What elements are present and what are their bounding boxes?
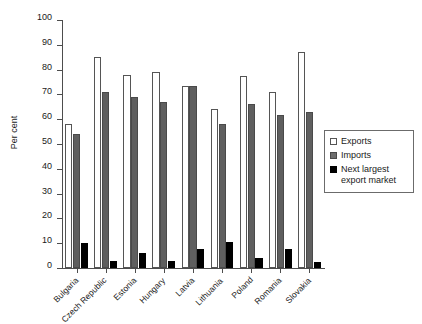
legend-swatch-next-largest-export-market-icon (330, 166, 337, 173)
bar-imports (219, 124, 226, 268)
bar-exports (298, 52, 305, 268)
bar-group (269, 20, 292, 268)
bar-exports (123, 75, 130, 268)
x-axis-tick-mark (280, 268, 281, 273)
bar-imports (131, 97, 138, 268)
y-axis-tick-label: 30 (42, 187, 52, 196)
y-axis-tick-label: 0 (47, 261, 52, 270)
bar-next-largest-export-market (255, 258, 262, 268)
bar-next-largest-export-market (168, 261, 175, 268)
x-axis-tick-mark (251, 268, 252, 273)
x-axis-tick-mark (106, 268, 107, 273)
bar-group (240, 20, 263, 268)
bar-exports (269, 92, 276, 268)
bar-imports (189, 86, 196, 268)
x-axis-label: Hungary (138, 276, 167, 305)
bar-next-largest-export-market (197, 249, 204, 268)
legend-item-exports: Exports (330, 136, 409, 147)
bar-group (298, 20, 321, 268)
y-axis-title: Per cent (10, 88, 19, 178)
x-axis-tick-mark (77, 268, 78, 273)
bar-chart: Per cent 0102030405060708090100 Bulgaria… (0, 0, 422, 324)
y-axis-tick-label: 100 (37, 13, 52, 22)
x-axis-tick-mark (135, 268, 136, 273)
x-axis-label: Lithuania (194, 276, 225, 307)
y-axis-tick-label: 40 (42, 162, 52, 171)
bar-group (152, 20, 175, 268)
bar-group (123, 20, 146, 268)
legend-swatch-imports-icon (330, 152, 337, 159)
x-axis-label: Estonia (112, 276, 138, 302)
legend-item-next-largest-export-market: Next largest export market (330, 164, 409, 186)
legend-label-exports: Exports (341, 136, 372, 147)
bar-group (65, 20, 88, 268)
x-axis-label: Romania (253, 276, 283, 306)
bar-exports (65, 124, 72, 268)
bar-imports (102, 92, 109, 268)
bar-next-largest-export-market (139, 253, 146, 268)
bar-next-largest-export-market (285, 249, 292, 268)
bar-imports (248, 104, 255, 268)
bar-next-largest-export-market (81, 243, 88, 268)
bar-exports (211, 109, 218, 268)
bar-imports (306, 112, 313, 268)
plot-area (62, 20, 324, 268)
x-axis-label: Poland (230, 276, 255, 301)
y-axis-tick-label: 10 (42, 236, 52, 245)
y-axis-tick-label: 50 (42, 137, 52, 146)
bar-imports (277, 115, 284, 268)
bar-exports (240, 76, 247, 268)
x-axis-label: Latvia (174, 276, 196, 298)
y-axis-tick-label: 70 (42, 87, 52, 96)
x-axis-tick-mark (193, 268, 194, 273)
y-axis-tick-label: 60 (42, 112, 52, 121)
x-axis-tick-mark (222, 268, 223, 273)
bar-group (94, 20, 117, 268)
bar-group (211, 20, 234, 268)
x-axis-tick-mark (164, 268, 165, 273)
legend-label-imports: Imports (341, 150, 371, 161)
legend-swatch-exports-icon (330, 138, 337, 145)
bar-group (182, 20, 205, 268)
legend-label-next-largest-export-market: Next largest export market (341, 164, 409, 186)
bar-next-largest-export-market (314, 262, 321, 268)
bar-imports (73, 134, 80, 268)
x-axis-tick-mark (309, 268, 310, 273)
bar-exports (152, 72, 159, 268)
x-axis-label: Slovakia (284, 276, 313, 305)
y-axis-tick-mark (57, 268, 62, 269)
y-axis-tick-label: 90 (42, 38, 52, 47)
bar-imports (160, 102, 167, 268)
bar-next-largest-export-market (226, 242, 233, 268)
bar-exports (182, 86, 189, 268)
legend-item-imports: Imports (330, 150, 409, 161)
y-axis-tick-label: 80 (42, 63, 52, 72)
chart-legend: Exports Imports Next largest export mark… (324, 130, 414, 193)
bar-exports (94, 57, 101, 268)
y-axis-tick-label: 20 (42, 211, 52, 220)
bar-next-largest-export-market (110, 261, 117, 268)
